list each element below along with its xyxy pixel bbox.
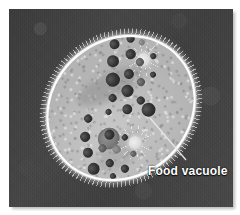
label-food-vacuole: Food vacuole [148,164,228,178]
micrograph-photo: Food vacuole [9,9,233,207]
micrograph-figure: Food vacuole [0,0,240,215]
